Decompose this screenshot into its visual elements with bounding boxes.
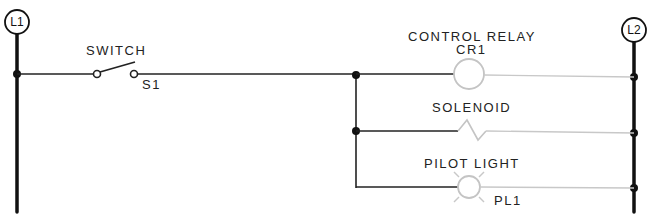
wire-solenoid-to-l2 xyxy=(486,131,634,133)
pilot-light-tag: PL1 xyxy=(494,194,522,208)
switch-tag: S1 xyxy=(142,78,161,92)
switch-s1-symbol[interactable] xyxy=(94,62,138,78)
ladder-diagram: L1 L2 SWITCH S1 CONTROL RELAY CR1 SOLENO… xyxy=(0,0,653,218)
wire-relay-to-l2 xyxy=(484,75,634,77)
pilot-light-pl1[interactable] xyxy=(454,172,484,202)
pilot-light-label: PILOT LIGHT xyxy=(424,157,520,171)
wire-pilot-light-to-l2 xyxy=(480,187,634,188)
left-rail xyxy=(5,10,29,212)
junction-node-1 xyxy=(352,71,360,79)
rail-label-l2: L2 xyxy=(622,24,646,36)
right-rail xyxy=(622,18,646,212)
rail-label-l1: L1 xyxy=(5,16,29,28)
switch-label: SWITCH xyxy=(86,44,146,58)
relay-tag: CR1 xyxy=(456,43,487,57)
diagram-graphics xyxy=(0,0,653,218)
solenoid-label: SOLENOID xyxy=(432,101,511,115)
relay-coil-cr1[interactable] xyxy=(454,59,484,89)
solenoid-symbol[interactable] xyxy=(458,120,486,140)
